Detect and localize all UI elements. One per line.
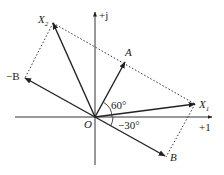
label-x2-sub: 2	[45, 20, 49, 28]
dotted-x1-b	[166, 104, 195, 157]
label-b: B	[170, 151, 177, 163]
label-x2: X2	[37, 13, 49, 28]
arc-minus-30	[111, 117, 113, 126]
label-a: A	[124, 46, 132, 58]
phasor-diagram: +j +1 O A B −B X1 X2 60° −30°	[0, 0, 224, 175]
label-x1-sub: 1	[206, 105, 210, 113]
origin-label: O	[84, 118, 92, 130]
phasor-minus-b	[25, 78, 95, 117]
phasor-x1	[95, 104, 195, 117]
angle-label-60: 60°	[111, 99, 126, 111]
dotted-x2-minus-b	[25, 23, 53, 78]
label-x1: X1	[198, 98, 209, 113]
angle-label-minus-30: −30°	[118, 119, 140, 131]
imag-axis-label: +j	[99, 9, 108, 21]
real-axis-label: +1	[199, 121, 211, 133]
phasor-x2	[53, 23, 95, 117]
label-minus-b: −B	[6, 70, 20, 82]
